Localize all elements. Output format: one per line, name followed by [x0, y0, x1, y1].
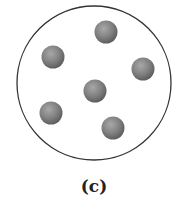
- particle: [40, 102, 63, 125]
- figure-label: (c): [0, 176, 172, 196]
- particle: [84, 80, 107, 103]
- particle: [132, 58, 155, 81]
- particle: [95, 21, 118, 44]
- diagram-canvas: [0, 0, 172, 199]
- particle: [42, 46, 65, 69]
- particle: [102, 117, 125, 140]
- particles-group: [40, 21, 155, 140]
